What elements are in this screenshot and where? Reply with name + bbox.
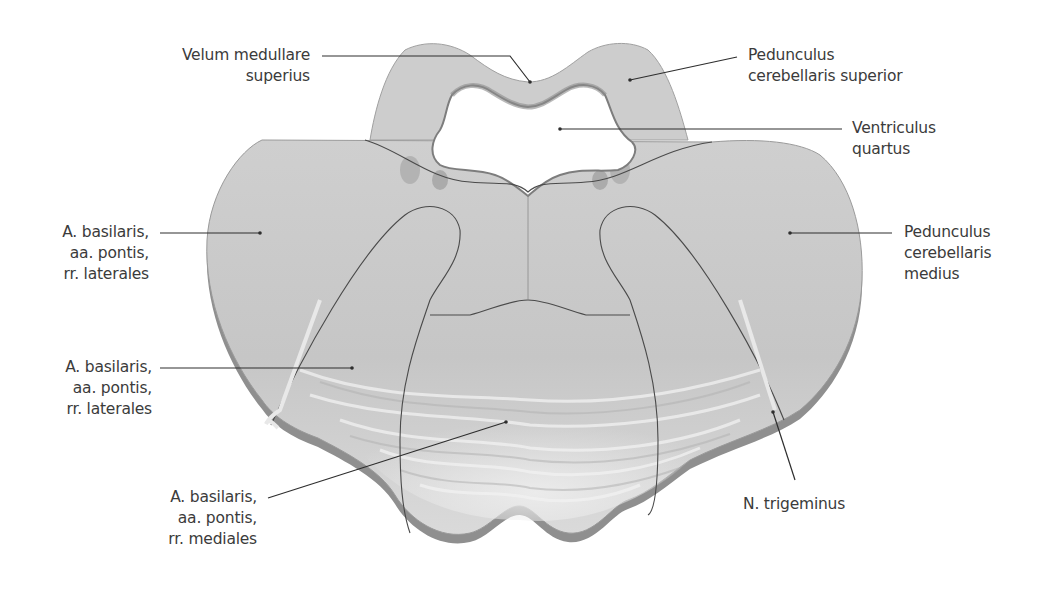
label-line: rr. laterales <box>65 399 152 420</box>
label-line: quartus <box>852 139 936 160</box>
label-pedunculus-cerebellaris-superior: Pedunculus cerebellaris superior <box>748 45 902 87</box>
label-line: Pedunculus <box>748 45 902 66</box>
label-a-basilaris-rr-laterales-2: A. basilaris, aa. pontis, rr. laterales <box>65 357 152 420</box>
label-a-basilaris-rr-laterales-1: A. basilaris, aa. pontis, rr. laterales <box>62 222 149 285</box>
label-line: A. basilaris, <box>62 222 149 243</box>
label-pedunculus-cerebellaris-medius: Pedunculus cerebellaris medius <box>904 222 991 285</box>
label-line: Pedunculus <box>904 222 991 243</box>
label-line: superius <box>182 66 310 87</box>
label-a-basilaris-rr-mediales: A. basilaris, aa. pontis, rr. mediales <box>168 487 257 550</box>
label-velum-medullare-superius: Velum medullare superius <box>182 45 310 87</box>
label-line: rr. laterales <box>62 264 149 285</box>
label-n-trigeminus: N. trigeminus <box>743 494 845 515</box>
label-line: medius <box>904 264 991 285</box>
label-line: Velum medullare <box>182 45 310 66</box>
label-line: A. basilaris, <box>65 357 152 378</box>
label-line: cerebellaris superior <box>748 66 902 87</box>
label-line: aa. pontis, <box>65 378 152 399</box>
label-line: rr. mediales <box>168 529 257 550</box>
label-line: aa. pontis, <box>168 508 257 529</box>
label-line: Ventriculus <box>852 118 936 139</box>
label-line: N. trigeminus <box>743 494 845 515</box>
pons-cross-section-illustration <box>0 0 1038 593</box>
label-line: aa. pontis, <box>62 243 149 264</box>
label-line: cerebellaris <box>904 243 991 264</box>
label-line: A. basilaris, <box>168 487 257 508</box>
label-ventriculus-quartus: Ventriculus quartus <box>852 118 936 160</box>
